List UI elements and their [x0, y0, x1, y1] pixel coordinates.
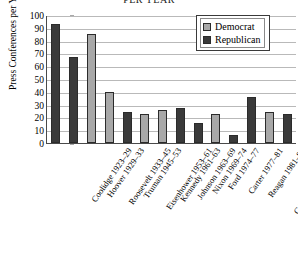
legend: DemocratRepublican	[196, 15, 270, 51]
bar-slot	[47, 16, 65, 143]
bar	[69, 57, 78, 143]
legend-swatch-icon	[203, 23, 211, 31]
y-axis-tick-labels: 1009080706050403020100	[24, 11, 44, 149]
bar-slot	[278, 16, 296, 143]
bar	[123, 112, 132, 143]
y-tick-label: 10	[35, 127, 45, 136]
bar	[247, 97, 256, 143]
bar-slot	[65, 16, 83, 143]
legend-label: Republican	[215, 34, 261, 45]
y-tick-label: 100	[30, 12, 44, 21]
bar	[105, 92, 114, 143]
legend-swatch-icon	[203, 36, 211, 44]
bar-slot	[154, 16, 172, 143]
bar-slot	[83, 16, 101, 143]
bar	[140, 114, 149, 143]
bar	[194, 123, 203, 143]
legend-item: Democrat	[203, 20, 261, 33]
bar-slot	[171, 16, 189, 143]
bar-slot	[136, 16, 154, 143]
bar-slot	[118, 16, 136, 143]
legend-label: Democrat	[215, 21, 254, 32]
x-axis-tick-labels: Coolidge 1923–29Hoover 1929–33Roosevelt …	[46, 146, 296, 266]
bar-slot	[100, 16, 118, 143]
y-tick-label: 20	[35, 114, 45, 123]
bar	[211, 114, 220, 143]
bar	[158, 110, 167, 143]
chart-title: PER YEAR	[0, 0, 298, 5]
y-tick-label: 0	[39, 140, 44, 149]
y-tick-label: 70	[35, 50, 45, 59]
bar	[283, 114, 292, 143]
y-axis-title: Press Conferences per Year	[8, 0, 18, 103]
y-tick-label: 50	[35, 76, 45, 85]
press-conferences-bar-chart: PER YEAR Press Conferences per Year 1009…	[0, 0, 298, 269]
y-tick-label: 30	[35, 101, 45, 110]
y-tick-label: 90	[35, 24, 45, 33]
bar	[87, 34, 96, 143]
bar	[51, 24, 60, 143]
bar	[176, 108, 185, 143]
bar	[265, 112, 274, 143]
y-tick-label: 40	[35, 88, 45, 97]
y-tick-label: 60	[35, 63, 45, 72]
y-tick-label: 80	[35, 37, 45, 46]
bar	[229, 135, 238, 143]
legend-item: Republican	[203, 33, 261, 46]
